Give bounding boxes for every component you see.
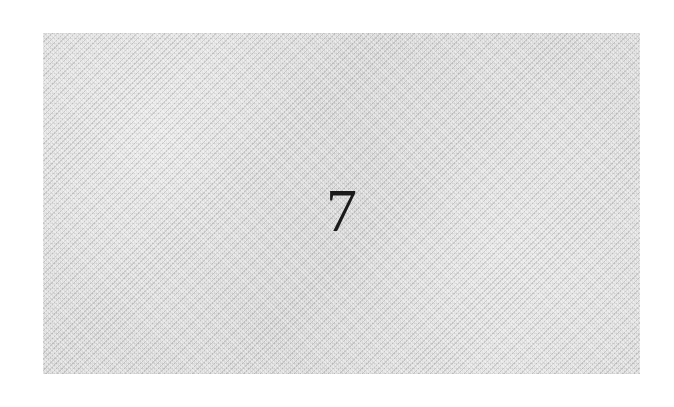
captcha-image: 7: [0, 0, 674, 407]
noise-background: 7: [43, 33, 640, 374]
captcha-digit: 7: [43, 33, 640, 374]
